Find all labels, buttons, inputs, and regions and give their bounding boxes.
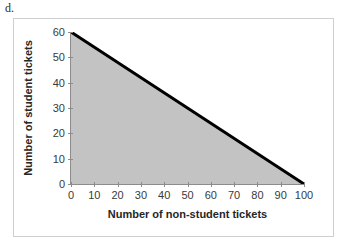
y-tick-label: 20 bbox=[53, 128, 65, 139]
chart-frame: Number of student tickets 0 10 20 30 40 … bbox=[13, 18, 334, 237]
x-tick bbox=[164, 182, 165, 187]
x-tick-label: 10 bbox=[88, 190, 100, 201]
y-tick-label: 60 bbox=[53, 27, 65, 38]
x-tick bbox=[211, 182, 212, 187]
x-tick-label: 90 bbox=[275, 190, 287, 201]
x-tick bbox=[71, 182, 72, 187]
y-tick bbox=[68, 159, 73, 160]
y-tick bbox=[68, 57, 73, 58]
y-axis-title: Number of student tickets bbox=[21, 32, 35, 184]
y-axis-title-text: Number of student tickets bbox=[22, 40, 34, 176]
x-tick bbox=[281, 182, 282, 187]
x-tick bbox=[257, 182, 258, 187]
x-tick-label: 40 bbox=[158, 190, 170, 201]
x-tick-label: 20 bbox=[111, 190, 123, 201]
x-axis-title: Number of non-student tickets bbox=[71, 208, 304, 221]
y-tick-label: 50 bbox=[53, 52, 65, 63]
x-tick-label: 50 bbox=[181, 190, 193, 201]
y-tick-label: 0 bbox=[59, 179, 65, 190]
y-tick-label: 40 bbox=[53, 77, 65, 88]
y-tick bbox=[68, 108, 73, 109]
x-tick bbox=[141, 182, 142, 187]
y-tick bbox=[68, 32, 73, 33]
y-tick-label: 30 bbox=[53, 103, 65, 114]
x-tick-label: 60 bbox=[205, 190, 217, 201]
x-tick bbox=[188, 182, 189, 187]
x-tick bbox=[94, 182, 95, 187]
x-tick-label: 70 bbox=[228, 190, 240, 201]
y-tick bbox=[68, 83, 73, 84]
y-tick-label: 10 bbox=[53, 153, 65, 164]
y-tick bbox=[68, 133, 73, 134]
x-tick bbox=[304, 182, 305, 187]
x-tick-label: 0 bbox=[68, 190, 74, 201]
x-tick bbox=[118, 182, 119, 187]
x-tick-label: 100 bbox=[295, 190, 313, 201]
x-tick bbox=[234, 182, 235, 187]
plot-canvas bbox=[71, 32, 304, 184]
part-label: d. bbox=[5, 1, 14, 15]
x-tick-label: 30 bbox=[135, 190, 147, 201]
x-tick-label: 80 bbox=[251, 190, 263, 201]
plot-area: 0 10 20 30 40 50 60 0 10 20 30 40 50 60 … bbox=[71, 32, 304, 184]
